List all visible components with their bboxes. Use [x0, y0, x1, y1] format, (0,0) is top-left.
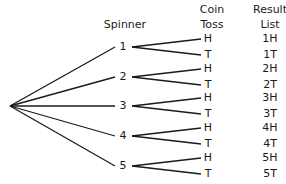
- result-item: 5H: [262, 152, 277, 164]
- spinner-outcome-3: 3: [120, 100, 127, 112]
- coin-outcome: T: [205, 49, 212, 61]
- result-item: 5T: [263, 168, 277, 180]
- header-spinner: Spinner: [104, 19, 146, 31]
- coin-outcome: H: [204, 92, 212, 104]
- spinner-outcome-1: 1: [120, 41, 127, 53]
- result-item: 3T: [263, 108, 277, 120]
- tree-diagram: Spinner Coin Toss Result List 1HT1H1T2HT…: [0, 0, 286, 184]
- spinner-outcome-2: 2: [120, 71, 127, 83]
- header-toss: Toss: [200, 19, 223, 31]
- coin-outcome: T: [205, 108, 212, 120]
- header-result: Result: [253, 4, 286, 16]
- coin-outcome: T: [205, 79, 212, 91]
- coin-outcome: H: [204, 152, 212, 164]
- coin-outcome: H: [204, 33, 212, 45]
- coin-outcome: H: [204, 63, 212, 75]
- spinner-outcome-5: 5: [120, 160, 127, 172]
- result-item: 1H: [262, 33, 277, 45]
- result-item: 1T: [263, 49, 277, 61]
- result-item: 4T: [263, 138, 277, 150]
- result-item: 3H: [262, 92, 277, 104]
- coin-outcome: T: [205, 138, 212, 150]
- result-item: 4H: [262, 122, 277, 134]
- result-item: 2H: [262, 63, 277, 75]
- header-list: List: [260, 19, 279, 31]
- spinner-outcome-4: 4: [120, 130, 127, 142]
- coin-outcome: H: [204, 122, 212, 134]
- coin-outcome: T: [205, 168, 212, 180]
- result-item: 2T: [263, 79, 277, 91]
- header-coin: Coin: [200, 4, 224, 16]
